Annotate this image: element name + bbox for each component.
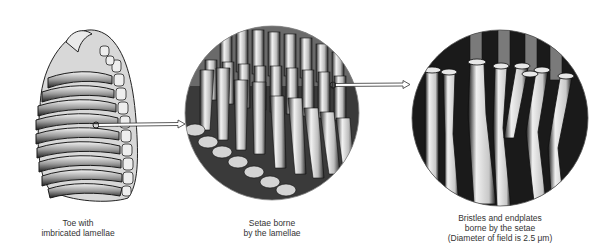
setae-magnified-view (185, 26, 360, 200)
caption-bristles-line-3: (Diameter of field is 2.5 μm) (448, 233, 553, 243)
caption-bristles: Bristles and endplates borne by the seta… (448, 213, 553, 243)
gecko-toe-magnification-diagram (0, 0, 616, 246)
bristles-magnified-view (410, 28, 590, 208)
caption-setae: Setae borne by the lamellae (243, 218, 300, 238)
caption-setae-line-1: Setae borne (243, 218, 300, 228)
caption-toe-line-1: Toe with (41, 218, 114, 228)
caption-bristles-line-1: Bristles and endplates (448, 213, 553, 223)
caption-bristles-line-2: borne by the setae (448, 223, 553, 233)
toe-illustration (36, 30, 137, 201)
caption-toe: Toe with imbricated lamellae (41, 218, 114, 238)
caption-toe-line-2: imbricated lamellae (41, 228, 114, 238)
caption-setae-line-2: by the lamellae (243, 228, 300, 238)
